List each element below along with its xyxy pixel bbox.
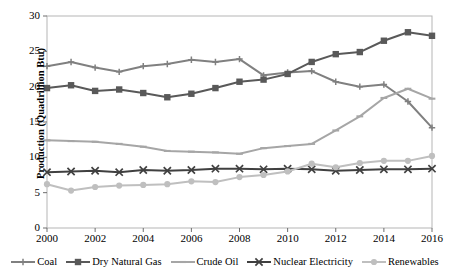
data-point-marker	[429, 153, 435, 159]
legend-item-dry-natural-gas[interactable]: Dry Natural Gas	[66, 256, 161, 267]
series-line	[47, 32, 432, 97]
x-tick-label: 2008	[217, 232, 263, 244]
plot-frame	[47, 16, 432, 228]
data-point-marker	[140, 63, 146, 69]
series-dry-natural-gas	[44, 29, 435, 100]
data-point-marker	[357, 83, 363, 89]
data-point-marker	[75, 258, 81, 264]
data-point-marker	[116, 86, 122, 92]
data-point-marker	[285, 168, 291, 174]
legend-item-nuclear-electricity[interactable]: Nuclear Electricity	[247, 256, 353, 267]
data-point-marker	[357, 160, 363, 166]
data-point-marker	[256, 258, 263, 265]
data-point-marker	[260, 172, 266, 178]
legend-swatch-dash-icon	[171, 257, 195, 267]
legend-swatch-x-icon	[247, 257, 271, 267]
legend-label: Renewables	[387, 256, 439, 267]
chart-legend: CoalDry Natural GasCrude OilNuclear Elec…	[0, 256, 450, 267]
legend-swatch-square-icon	[66, 257, 90, 267]
legend-label: Coal	[36, 256, 57, 267]
series-line	[47, 89, 432, 154]
data-point-marker	[357, 49, 363, 55]
data-point-marker	[188, 91, 194, 97]
data-point-marker	[188, 178, 194, 184]
data-point-marker	[140, 182, 146, 188]
legend-swatch-circle-icon	[362, 257, 386, 267]
x-tick-label: 2000	[24, 232, 70, 244]
legend-label: Dry Natural Gas	[91, 256, 161, 267]
legend-item-coal[interactable]: Coal	[11, 256, 57, 267]
data-point-marker	[333, 79, 339, 85]
data-point-marker	[212, 85, 218, 91]
data-point-marker	[405, 29, 411, 35]
series-line	[47, 156, 432, 191]
data-point-marker	[333, 51, 339, 57]
data-point-marker	[405, 158, 411, 164]
data-point-marker	[92, 64, 98, 70]
legend-label: Crude Oil	[196, 256, 239, 267]
data-point-marker	[212, 179, 218, 185]
data-point-marker	[164, 181, 170, 187]
line-chart: Production (Quadrillion Btu) 05101520253…	[0, 0, 450, 276]
data-point-marker	[381, 38, 387, 44]
data-point-marker	[92, 184, 98, 190]
data-point-marker	[381, 158, 387, 164]
x-tick-label: 2014	[361, 232, 407, 244]
data-point-marker	[68, 82, 74, 88]
data-point-marker	[68, 59, 74, 65]
y-tick-label: 10	[14, 150, 40, 162]
y-tick-label: 5	[14, 186, 40, 198]
legend-swatch-plus-icon	[11, 257, 35, 267]
data-point-marker	[284, 71, 290, 77]
series-renewables	[44, 153, 435, 194]
data-point-marker	[164, 61, 170, 67]
series-line	[47, 59, 432, 128]
y-tick-label: 30	[14, 9, 40, 21]
x-tick-label: 2004	[120, 232, 166, 244]
data-point-marker	[164, 94, 170, 100]
legend-item-crude-oil[interactable]: Crude Oil	[171, 256, 239, 267]
data-point-marker	[20, 258, 26, 264]
data-point-marker	[333, 164, 339, 170]
y-tick-label: 20	[14, 80, 40, 92]
data-point-marker	[308, 68, 314, 74]
data-point-marker	[116, 69, 122, 75]
data-point-marker	[212, 59, 218, 65]
data-point-marker	[429, 33, 435, 39]
data-point-marker	[236, 79, 242, 85]
data-point-marker	[116, 183, 122, 189]
data-point-marker	[371, 258, 377, 264]
x-tick-label: 2012	[313, 232, 359, 244]
data-point-marker	[260, 76, 266, 82]
data-point-marker	[236, 174, 242, 180]
series-crude-oil	[44, 89, 436, 154]
data-point-marker	[68, 187, 74, 193]
data-point-marker	[309, 161, 315, 167]
y-tick-label: 15	[14, 115, 40, 127]
x-tick-label: 2010	[265, 232, 311, 244]
x-tick-label: 2016	[409, 232, 450, 244]
data-point-marker	[308, 59, 314, 65]
x-tick-label: 2002	[72, 232, 118, 244]
y-tick-label: 25	[14, 44, 40, 56]
legend-label: Nuclear Electricity	[272, 256, 353, 267]
data-point-marker	[188, 57, 194, 63]
x-tick-label: 2006	[168, 232, 214, 244]
data-point-marker	[140, 90, 146, 96]
series-coal	[44, 56, 435, 131]
data-point-marker	[92, 88, 98, 94]
legend-item-renewables[interactable]: Renewables	[362, 256, 439, 267]
